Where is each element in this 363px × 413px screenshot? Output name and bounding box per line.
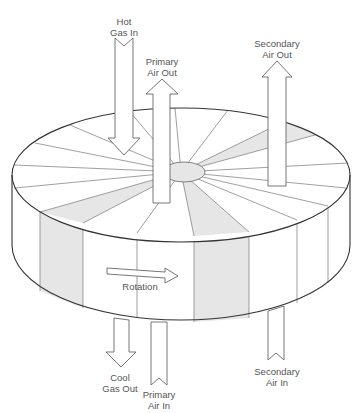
label-line: Secondary xyxy=(237,38,317,49)
wall-shaded-strip-center xyxy=(194,232,249,322)
label-line: Secondary xyxy=(237,366,317,377)
label-rotation: Rotation xyxy=(100,281,180,292)
label-line: Hot xyxy=(84,16,164,27)
cool-gas-out-arrow xyxy=(106,318,136,367)
label-line: Air Out xyxy=(122,67,202,78)
label-primary-air-in: Primary Air In xyxy=(119,389,199,411)
label-hot-gas-in: Hot Gas In xyxy=(84,16,164,38)
label-line: Rotation xyxy=(100,281,180,292)
label-line: Primary xyxy=(122,56,202,67)
secondary-air-in-arrow xyxy=(268,306,284,360)
label-line: Air In xyxy=(237,377,317,388)
label-line: Air In xyxy=(119,400,199,411)
label-line: Primary xyxy=(119,389,199,400)
label-secondary-air-out: Secondary Air Out xyxy=(237,38,317,60)
label-line: Air Out xyxy=(237,49,317,60)
label-secondary-air-in: Secondary Air In xyxy=(237,366,317,388)
label-primary-air-out: Primary Air Out xyxy=(122,56,202,78)
label-line: Cool xyxy=(80,372,160,383)
label-line: Gas In xyxy=(84,27,164,38)
